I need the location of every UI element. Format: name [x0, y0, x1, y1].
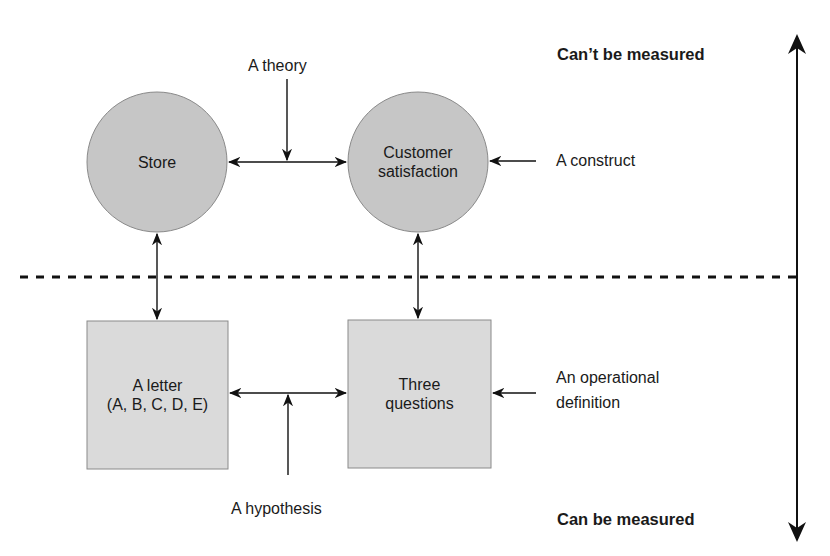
diagram-canvas — [0, 0, 830, 556]
three-questions-label-line2: questions — [385, 394, 454, 413]
three-questions-label: Three questions — [348, 320, 491, 468]
cannot-be-measured-label: Can’t be measured — [557, 45, 705, 64]
can-be-measured-label: Can be measured — [557, 510, 695, 529]
customer-satisfaction-label: Customer satisfaction — [348, 92, 488, 232]
letter-label-line2: (A, B, C, D, E) — [107, 395, 208, 414]
hypothesis-annotation: A hypothesis — [231, 499, 322, 518]
letter-label-line1: A letter — [133, 376, 183, 395]
theory-annotation: A theory — [248, 56, 307, 75]
three-questions-label-line1: Three — [399, 375, 441, 394]
customer-satisfaction-label-line2: satisfaction — [378, 162, 458, 181]
store-label: Store — [87, 92, 227, 232]
construct-annotation: A construct — [556, 151, 635, 170]
letter-label: A letter (A, B, C, D, E) — [87, 321, 228, 469]
operational-definition-annotation: An operational definition — [556, 368, 659, 412]
operational-definition-line1: An operational — [556, 368, 659, 387]
customer-satisfaction-label-line1: Customer — [383, 143, 452, 162]
store-label-text: Store — [138, 153, 176, 172]
operational-definition-line2: definition — [556, 393, 659, 412]
